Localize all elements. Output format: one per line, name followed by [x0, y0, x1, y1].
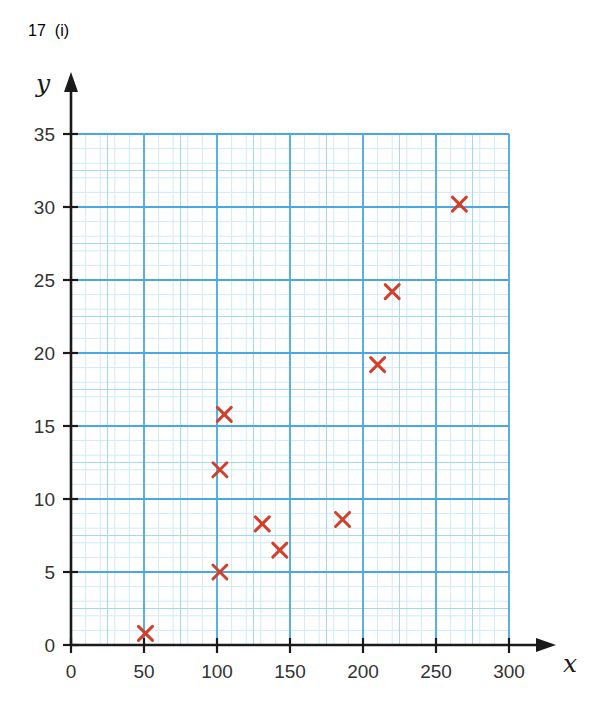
- y-axis-tick-label: 30: [34, 197, 55, 218]
- x-axis-tick-labels: 050100150200250300: [66, 661, 525, 682]
- y-axis-tick-label: 15: [34, 416, 55, 437]
- x-axis-tick-label: 100: [201, 661, 233, 682]
- y-axis-tick-label: 5: [44, 562, 55, 583]
- x-axis-tick-label: 300: [493, 661, 525, 682]
- y-axis-tick-label: 10: [34, 489, 55, 510]
- x-axis-tick-label: 0: [66, 661, 77, 682]
- scatter-plot-figure: 050100150200250300 05101520253035 x y: [0, 0, 597, 718]
- scatter-plot-svg: 050100150200250300 05101520253035 x y: [0, 0, 597, 718]
- x-axis-tick-label: 250: [420, 661, 452, 682]
- y-axis-tick-label: 35: [34, 124, 55, 145]
- y-axis-tick-label: 25: [34, 270, 55, 291]
- y-axis-tick-labels: 05101520253035: [34, 124, 55, 656]
- y-axis-label: y: [35, 69, 51, 98]
- y-axis-arrowhead: [64, 72, 78, 92]
- y-axis-tick-label: 20: [34, 343, 55, 364]
- y-axis-tick-label: 0: [44, 635, 55, 656]
- x-axis-tick-label: 150: [274, 661, 306, 682]
- x-axis-arrowhead: [536, 638, 556, 652]
- x-axis-tick-label: 50: [133, 661, 154, 682]
- x-axis-tick-label: 200: [347, 661, 379, 682]
- x-axis-label: x: [563, 649, 577, 678]
